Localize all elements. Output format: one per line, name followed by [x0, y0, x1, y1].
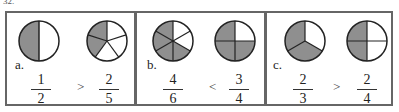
problem-a-box: a. 1 2 > 2 5: [5, 11, 136, 106]
fraction-left: 1 2: [31, 73, 51, 106]
problem-b-box: b. 4 6 < 3 4: [135, 11, 266, 106]
fraction-left: 2 3: [293, 73, 313, 106]
problem-label: b.: [147, 57, 157, 73]
pie-fifths-icon: [85, 19, 129, 63]
comparison-operator: <: [209, 79, 216, 95]
comparison-operator: >: [333, 79, 340, 95]
pie-sixths-icon: [151, 19, 195, 63]
pie-quarters-icon: [213, 19, 257, 63]
pie-thirds-icon: [283, 19, 327, 63]
problem-label: a.: [15, 57, 24, 73]
fraction-right: 2 5: [99, 73, 119, 106]
fraction-right: 3 4: [229, 73, 249, 106]
problem-c-box: c. 2 3 > 2 4: [265, 11, 393, 106]
question-number: 32.: [3, 0, 14, 6]
fraction-right: 2 4: [357, 73, 377, 106]
problem-label: c.: [273, 57, 282, 73]
pie-quarters-icon: [345, 19, 389, 63]
fraction-left: 4 6: [163, 73, 183, 106]
comparison-operator: >: [77, 79, 84, 95]
